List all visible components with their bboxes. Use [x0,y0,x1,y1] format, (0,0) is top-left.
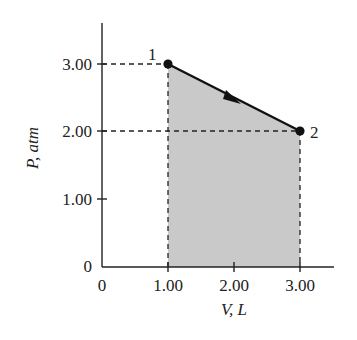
x-tick-2: 2.00 [219,276,249,295]
point-2-label: 2 [310,123,319,142]
work-area-shading [168,64,300,267]
y-tick-1: 1.00 [62,190,92,209]
x-tick-0: 0 [98,276,107,295]
y-tick-0: 0 [84,257,93,276]
y-tick-3: 3.00 [62,55,92,74]
x-axis-label: V, L [221,300,247,319]
y-tick-2: 2.00 [62,122,92,141]
x-tick-1: 1.00 [153,276,183,295]
y-axis-label: P, atm [23,127,42,170]
x-tick-3: 3.00 [285,276,315,295]
point-1 [163,59,172,68]
pv-diagram: 1 2 3.00 2.00 1.00 0 0 1.00 2.00 3.00 V,… [0,0,357,340]
point-2 [295,126,304,135]
point-1-label: 1 [148,45,157,64]
